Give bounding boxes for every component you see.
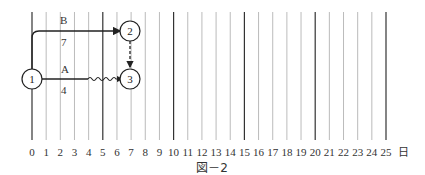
figure-caption: 図－2 [196,161,228,175]
tick-label: 16 [253,146,265,158]
tick-label: 7 [128,146,134,158]
tick-label: 0 [29,146,35,158]
tick-label: 17 [267,146,279,158]
svg-text:2: 2 [127,25,133,37]
tick-label: 5 [100,146,106,158]
tick-label: 22 [338,146,349,158]
tick-label: 6 [114,146,120,158]
tick-label: 24 [366,146,378,158]
axis-unit: 日 [398,146,409,158]
node-1: 1 [22,69,42,89]
tick-label: 14 [225,146,237,158]
node-2: 2 [120,21,140,41]
tick-label: 12 [196,146,207,158]
tick-label: 1 [43,146,49,158]
tick-label: 13 [211,146,223,158]
tick-label: 4 [86,146,92,158]
activity-b-name: B [60,14,67,26]
tick-label: 11 [182,146,193,158]
activity-a-duration: 4 [61,84,67,96]
tick-label: 3 [72,146,78,158]
tick-label: 19 [296,146,308,158]
tick-label: 8 [143,146,149,158]
node-3: 3 [120,69,140,89]
tick-label: 25 [381,146,393,158]
tick-label: 18 [281,146,293,158]
tick-label: 9 [157,146,163,158]
tick-label: 23 [352,146,364,158]
activity-b-duration: 7 [61,36,67,48]
activity-b-arrow [32,31,120,70]
svg-text:3: 3 [127,73,133,85]
axis-ticks: 0123456789101112131415161718192021222324… [29,146,392,158]
tick-label: 20 [310,146,322,158]
network-diagram: 0123456789101112131415161718192021222324… [0,0,425,175]
tick-label: 2 [58,146,64,158]
activity-a-name: A [61,63,69,75]
tick-label: 21 [324,146,335,158]
tick-label: 15 [239,146,251,158]
tick-label: 10 [168,146,180,158]
svg-text:1: 1 [29,73,35,85]
